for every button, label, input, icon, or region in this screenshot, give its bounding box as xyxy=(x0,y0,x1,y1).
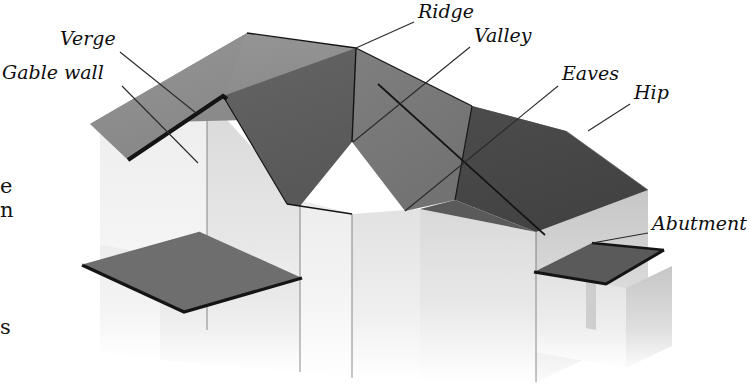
leader-line-hip xyxy=(588,104,630,131)
label-ridge: Ridge xyxy=(417,0,474,22)
label-valley: Valley xyxy=(474,24,532,46)
text-fragment-e: e xyxy=(0,174,12,198)
label-gable-wall: Gable wall xyxy=(2,61,104,83)
wall-abutment-front xyxy=(534,272,626,368)
label-verge: Verge xyxy=(60,27,116,49)
wall-front-center xyxy=(352,209,420,380)
text-fragment-n: n xyxy=(0,198,14,222)
clipped-body-text-fragments: e n s xyxy=(0,174,14,339)
roof-plane-valley-return xyxy=(352,48,472,211)
label-hip: Hip xyxy=(633,81,669,103)
diagram-canvas: Gable wall Verge Ridge Valley Eaves Hip … xyxy=(0,0,751,389)
label-eaves: Eaves xyxy=(561,62,619,84)
label-abutment: Abutment xyxy=(650,212,747,234)
leader-line-ridge xyxy=(356,22,414,48)
text-fragment-s: s xyxy=(0,315,11,339)
wall-front-right-main xyxy=(420,209,536,382)
wall-front-recess xyxy=(300,200,352,378)
roof-terminology-diagram: Gable wall Verge Ridge Valley Eaves Hip … xyxy=(0,0,751,389)
